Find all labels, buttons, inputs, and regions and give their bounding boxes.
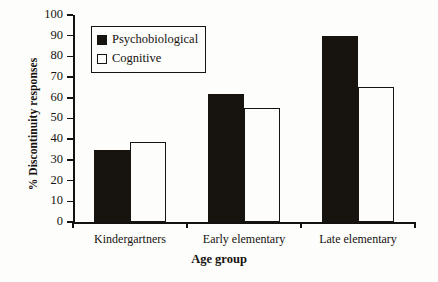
y-axis-tick: 30	[67, 159, 73, 161]
y-axis-tick-label: 20	[51, 173, 64, 188]
x-axis-tick	[414, 222, 416, 228]
y-axis-tick-label: 0	[57, 214, 63, 229]
legend-label: Cognitive	[112, 51, 161, 66]
x-axis-tick	[72, 222, 74, 228]
bar-psychobiological-early-elementary	[208, 94, 244, 222]
y-axis-tick: 60	[67, 97, 73, 99]
y-axis-tick: 70	[67, 76, 73, 78]
y-axis-tick: 50	[67, 118, 73, 120]
y-axis-tick: 90	[67, 35, 73, 37]
x-axis-category-label: Kindergartners	[94, 232, 166, 247]
x-axis-line	[73, 222, 415, 224]
y-axis-title: % Discontinuity responses	[27, 29, 39, 219]
y-axis-tick: 40	[67, 138, 73, 140]
legend-label: Psychobiological	[112, 32, 198, 47]
legend: Psychobiological Cognitive	[91, 26, 206, 73]
y-axis-tick: 80	[67, 56, 73, 58]
x-axis-title: Age group	[0, 252, 438, 267]
y-axis-tick: 100	[67, 14, 73, 16]
y-axis-tick: 20	[67, 180, 73, 182]
x-axis-category-label: Late elementary	[319, 232, 397, 247]
y-axis-tick-label: 100	[44, 7, 63, 22]
bar-cognitive-kindergartners	[130, 142, 166, 222]
y-axis-tick-label: 50	[51, 111, 64, 126]
x-axis-tick	[186, 222, 188, 228]
y-axis-tick-label: 10	[51, 193, 64, 208]
y-axis-line	[73, 15, 75, 222]
legend-item-psychobiological: Psychobiological	[97, 30, 198, 49]
open-square-icon	[97, 54, 107, 64]
y-axis-tick-label: 40	[51, 131, 64, 146]
y-axis-tick-label: 90	[51, 28, 64, 43]
legend-item-cognitive: Cognitive	[97, 49, 198, 68]
y-axis-tick-label: 30	[51, 152, 64, 167]
y-axis-tick-label: 70	[51, 69, 64, 84]
y-axis-tick-label: 60	[51, 90, 64, 105]
filled-square-icon	[97, 35, 107, 45]
bar-cognitive-early-elementary	[244, 108, 280, 222]
x-axis-category-label: Early elementary	[203, 232, 285, 247]
y-axis-tick-label: 80	[51, 49, 64, 64]
x-axis-tick	[300, 222, 302, 228]
bar-chart-figure: % Discontinuity responses 10090807060504…	[0, 0, 438, 282]
y-axis-tick: 10	[67, 201, 73, 203]
bar-cognitive-late-elementary	[358, 87, 394, 222]
bar-psychobiological-late-elementary	[322, 36, 358, 222]
bar-psychobiological-kindergartners	[94, 150, 130, 222]
